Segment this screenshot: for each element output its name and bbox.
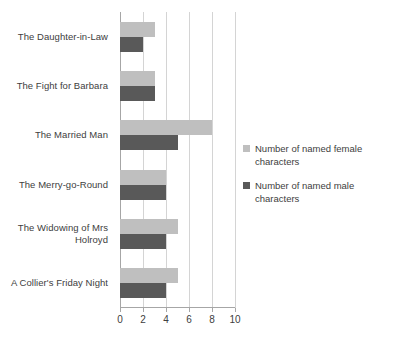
category-label: The Fight for Barbara xyxy=(0,61,114,110)
tick-mark xyxy=(143,308,144,312)
bar-female xyxy=(120,219,178,234)
tick-label: 10 xyxy=(229,314,240,325)
bar-female xyxy=(120,22,155,37)
tick-mark xyxy=(189,308,190,312)
tick-label: 8 xyxy=(209,314,215,325)
bar-group xyxy=(120,259,235,308)
legend-label: Number of named male characters xyxy=(255,179,401,205)
tick-mark xyxy=(120,308,121,312)
tick-mark xyxy=(166,308,167,312)
bar-group xyxy=(120,160,235,209)
legend-swatch-icon xyxy=(243,182,250,189)
bar-female xyxy=(120,170,166,185)
bar-male xyxy=(120,234,166,249)
tick-label: 6 xyxy=(186,314,192,325)
bar-group xyxy=(120,12,235,61)
category-label: The Merry-go-Round xyxy=(0,160,114,209)
bar-group xyxy=(120,209,235,258)
bar-male xyxy=(120,37,143,52)
tick-label: 2 xyxy=(140,314,146,325)
legend-item-female: Number of named female characters xyxy=(243,142,401,168)
bar-male xyxy=(120,135,178,150)
bar-chart: The Daughter-in-Law The Fight for Barbar… xyxy=(0,0,404,349)
legend-label: Number of named female characters xyxy=(255,142,401,168)
bar-male xyxy=(120,86,155,101)
category-label: The Widowing of Mrs Holroyd xyxy=(0,209,114,258)
category-axis: The Daughter-in-Law The Fight for Barbar… xyxy=(0,12,114,308)
category-label: A Collier's Friday Night xyxy=(0,259,114,308)
legend-item-male: Number of named male characters xyxy=(243,179,401,205)
tick-mark xyxy=(212,308,213,312)
tick-label: 0 xyxy=(117,314,123,325)
bar-group xyxy=(120,111,235,160)
legend-swatch-icon xyxy=(243,145,250,152)
value-axis: 0246810 xyxy=(120,308,235,338)
tick-mark xyxy=(235,308,236,312)
tick-label: 4 xyxy=(163,314,169,325)
bar-female xyxy=(120,71,155,86)
bar-group xyxy=(120,61,235,110)
bar-male xyxy=(120,283,166,298)
plot-area xyxy=(120,12,235,308)
bar-male xyxy=(120,185,166,200)
category-label: The Married Man xyxy=(0,111,114,160)
bar-female xyxy=(120,268,178,283)
bar-female xyxy=(120,120,212,135)
category-label: The Daughter-in-Law xyxy=(0,12,114,61)
legend: Number of named female characters Number… xyxy=(243,142,401,216)
gridline xyxy=(235,12,236,308)
bar-groups xyxy=(120,12,235,308)
